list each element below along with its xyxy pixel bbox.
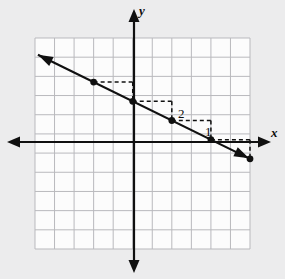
coordinate-plane-svg [0, 0, 285, 279]
x-axis-right-arrow [258, 137, 271, 148]
graph-figure: y x 2 1 [0, 0, 285, 279]
plotted-point [129, 98, 136, 105]
plotted-point [168, 117, 175, 124]
y-axis-top-arrow [129, 9, 140, 22]
x-axis-label: x [271, 126, 278, 139]
rise-label: 1 [205, 125, 212, 138]
y-axis-bottom-arrow [129, 260, 140, 273]
x-axis-left-arrow [7, 137, 20, 148]
y-axis-label: y [139, 4, 145, 17]
run-label: 2 [178, 107, 185, 120]
plotted-point [247, 155, 254, 162]
plotted-point [90, 79, 97, 86]
